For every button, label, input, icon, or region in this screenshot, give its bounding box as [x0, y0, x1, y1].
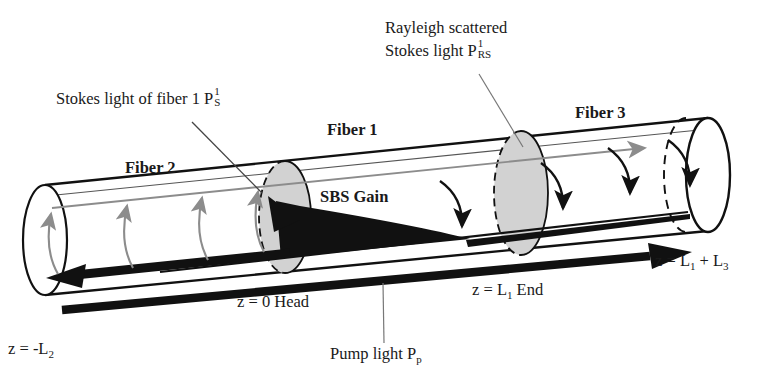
stokes-supsub: 1S — [214, 86, 220, 108]
label-z-right: z = L1 + L3 — [655, 252, 729, 272]
label-rayleigh: Rayleigh scattered Stokes light P1RS — [385, 18, 507, 62]
rayleigh-line1: Rayleigh scattered — [385, 18, 507, 37]
sbs-gain-wedge — [276, 201, 470, 258]
label-z-head: z = 0 Head — [237, 293, 309, 311]
rayleigh-line2: Stokes light P — [385, 41, 477, 60]
label-fiber-1: Fiber 1 — [327, 121, 378, 139]
black-curved-arrows-fiber3 — [608, 140, 690, 193]
rayleigh-supsub: 1RS — [478, 38, 491, 60]
label-sbs-gain: SBS Gain — [320, 188, 388, 206]
leader-line-rayleigh — [479, 74, 523, 147]
label-fiber-3: Fiber 3 — [575, 104, 626, 122]
label-z-left: z = -L2 — [8, 340, 54, 360]
figure-canvas: Stokes light of fiber 1 P1S Rayleigh sca… — [0, 0, 780, 379]
pump-thick-arrow-right — [62, 243, 692, 310]
right-cap-ellipse — [686, 118, 730, 232]
leader-line-pump — [383, 283, 384, 343]
leader-line-stokes — [192, 122, 262, 193]
label-stokes-fiber1: Stokes light of fiber 1 P1S — [56, 86, 220, 108]
label-z-end: z = L1 End — [472, 281, 543, 301]
label-fiber-2: Fiber 2 — [125, 159, 176, 177]
label-pump: Pump light Pp — [330, 345, 422, 365]
